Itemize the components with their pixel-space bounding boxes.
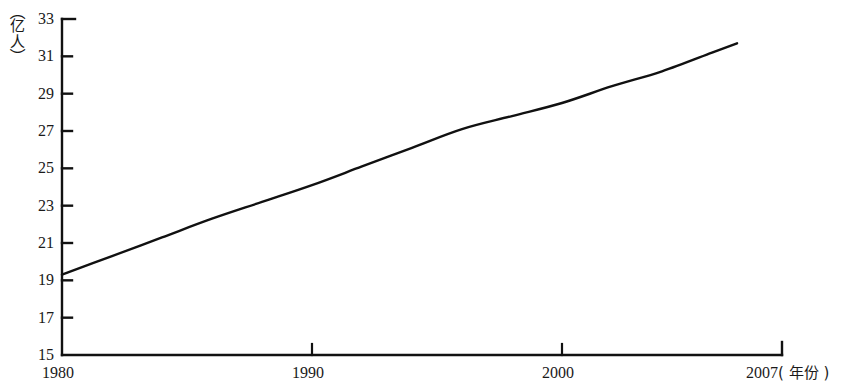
y-axis-tick-label: 33 [28,11,54,27]
x-axis-ticks [312,344,562,355]
y-axis-tick-label: 21 [28,235,54,251]
y-axis-tick-label: 29 [28,86,54,102]
y-axis-tick-label: 15 [28,347,54,363]
x-axis-end-year: 2007 [746,364,778,381]
y-axis-tick-label: 17 [28,310,54,326]
chart-plot-area [0,0,860,383]
y-axis-tick-label: 27 [28,123,54,139]
y-axis-tick-label: 31 [28,48,54,64]
population-line-chart: （ 亿 人 ） 15171921232527293133 19801990200… [0,0,860,383]
y-axis-tick-label: 19 [28,272,54,288]
population-curve [62,43,737,274]
y-axis-tick-label: 25 [28,160,54,176]
x-axis-group [62,342,782,355]
x-axis-tick-label: 2000 [542,364,574,382]
x-axis-tick-label: 1980 [42,364,74,382]
x-axis-tick-label: 1990 [292,364,324,382]
x-axis-tick-label: 2007( 年份 ) [746,364,829,382]
x-axis-unit-label: ( 年份 ) [778,364,829,382]
y-axis-tick-label: 23 [28,198,54,214]
y-axis-group [62,19,75,355]
